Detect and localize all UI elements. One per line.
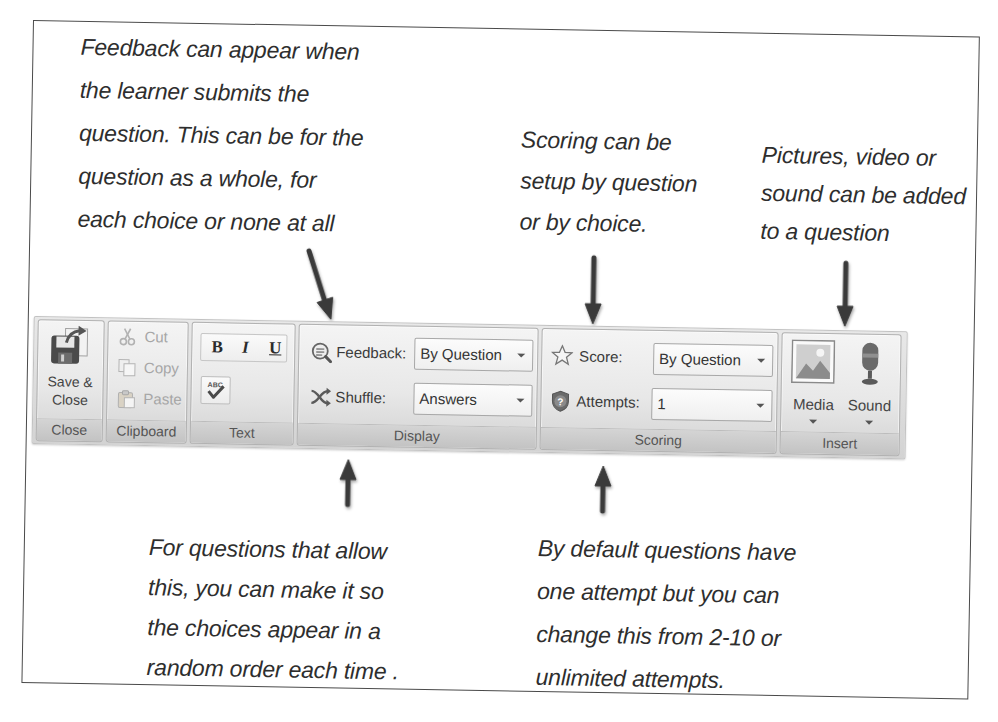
media-label: Media: [785, 395, 841, 414]
group-label-clipboard: Clipboard: [107, 419, 186, 442]
chevron-down-icon: [865, 421, 873, 425]
group-clipboard-body: Cut Copy: [107, 321, 188, 420]
note-line: to a question: [760, 212, 966, 254]
format-buttons: B I U: [200, 333, 287, 363]
save-close-icon: [48, 325, 93, 366]
note-feedback: Feedback can appear when the learner sub…: [77, 26, 365, 246]
note-line: each choice or none at all: [77, 198, 362, 246]
attempts-dropdown[interactable]: 1: [651, 388, 773, 422]
paste-icon: [116, 389, 136, 409]
media-button[interactable]: Media: [785, 335, 843, 430]
picture-icon: [791, 339, 836, 384]
group-label-insert: Insert: [781, 431, 899, 455]
score-dropdown-value: By Question: [659, 350, 741, 368]
attempts-dropdown-value: 1: [657, 395, 666, 412]
attempts-icon: ?: [549, 390, 571, 412]
note-line: unlimited attempts.: [535, 656, 794, 704]
group-text: B I U ABC Text: [190, 322, 296, 446]
note-media: Pictures, video or sound can be added to…: [760, 136, 967, 254]
copy-icon: [117, 358, 137, 378]
italic-button[interactable]: I: [233, 335, 257, 361]
shuffle-dropdown-value: Answers: [419, 390, 477, 408]
note-line: By default questions have: [537, 527, 796, 575]
spell-check-icon: ABC: [202, 377, 229, 407]
spelling-button[interactable]: ABC: [200, 376, 230, 405]
paste-button[interactable]: Paste: [107, 385, 186, 412]
arrow-down-icon: [837, 263, 854, 326]
arrow-down-icon: [308, 251, 334, 319]
note-line: Scoring can be: [521, 120, 699, 164]
svg-text:?: ?: [557, 396, 563, 407]
group-insert: Media Sound Insert: [780, 332, 902, 456]
paste-label: Paste: [143, 386, 182, 413]
group-display: Feedback: By Question Shuffle: Answers: [297, 324, 539, 450]
chevron-down-icon: [809, 420, 817, 424]
shuffle-label: Shuffle:: [335, 382, 386, 413]
sound-button[interactable]: Sound: [841, 336, 899, 431]
group-scoring-body: Score: By Question ? Attempts: 1: [541, 329, 778, 431]
copy-label: Copy: [144, 355, 179, 382]
arrow-up-icon: [340, 459, 357, 504]
sound-label: Sound: [841, 396, 897, 415]
group-label-text: Text: [191, 421, 293, 445]
group-clipboard: Cut Copy: [106, 320, 189, 443]
note-line: question as a whole, for: [78, 155, 363, 203]
chevron-down-icon: [756, 404, 764, 408]
svg-text:ABC: ABC: [208, 381, 223, 388]
shuffle-icon: [309, 386, 331, 408]
group-label-close: Close: [37, 418, 102, 441]
note-line: one attempt but you can: [537, 570, 796, 618]
question-ribbon: Save & Close Close: [32, 316, 908, 459]
note-line: random order each time .: [146, 647, 399, 691]
group-scoring: Score: By Question ? Attempts: 1: [540, 328, 779, 454]
arrow-down-icon: [585, 258, 602, 324]
cut-button[interactable]: Cut: [108, 323, 187, 350]
save-close-label-line2: Close: [37, 390, 102, 409]
note-line: Pictures, video or: [761, 136, 967, 178]
scissors-icon: [117, 327, 137, 347]
score-label: Score:: [579, 342, 623, 373]
feedback-icon: [310, 341, 332, 363]
save-close-button[interactable]: Save & Close: [37, 320, 104, 419]
note-line: setup by question: [520, 161, 698, 205]
note-line: this, you can make it so: [148, 567, 401, 611]
note-line: change this from 2-10 or: [536, 613, 795, 661]
copy-button[interactable]: Copy: [108, 354, 187, 381]
microphone-icon: [858, 340, 883, 386]
group-close-body: Save & Close: [37, 320, 104, 419]
group-display-body: Feedback: By Question Shuffle: Answers: [298, 325, 538, 427]
feedback-label: Feedback:: [336, 337, 407, 368]
chevron-down-icon: [517, 354, 525, 358]
chevron-down-icon: [516, 398, 524, 402]
group-label-display: Display: [298, 423, 536, 449]
group-text-body: B I U ABC: [191, 323, 295, 423]
feedback-dropdown[interactable]: By Question: [414, 338, 534, 372]
note-line: Feedback can appear when: [80, 26, 365, 74]
feedback-dropdown-value: By Question: [420, 345, 502, 363]
note-line: question. This can be for the: [79, 112, 364, 160]
arrow-up-icon: [595, 466, 612, 511]
save-close-label-line1: Save &: [38, 372, 103, 391]
note-line: the choices appear in a: [147, 607, 400, 651]
annotated-figure-frame: Feedback can appear when the learner sub…: [21, 20, 979, 699]
group-close: Save & Close Close: [36, 319, 105, 442]
note-line: or by choice.: [519, 202, 697, 246]
note-line: the learner submits the: [79, 69, 364, 117]
note-line: For questions that allow: [148, 527, 401, 571]
group-label-scoring: Scoring: [541, 427, 776, 453]
cut-label: Cut: [144, 324, 168, 350]
note-shuffle: For questions that allow this, you can m…: [146, 527, 401, 691]
note-scoring: Scoring can be setup by question or by c…: [519, 120, 698, 246]
note-attempts: By default questions have one attempt bu…: [535, 527, 796, 703]
group-insert-body: Media Sound: [781, 333, 901, 433]
attempts-label: Attempts:: [576, 387, 640, 418]
bold-button[interactable]: B: [205, 334, 229, 360]
chevron-down-icon: [757, 359, 765, 363]
star-icon: [551, 344, 573, 366]
shuffle-dropdown[interactable]: Answers: [413, 383, 533, 417]
underline-button[interactable]: U: [263, 335, 287, 361]
score-dropdown[interactable]: By Question: [653, 343, 774, 377]
note-line: sound can be added: [761, 174, 967, 216]
